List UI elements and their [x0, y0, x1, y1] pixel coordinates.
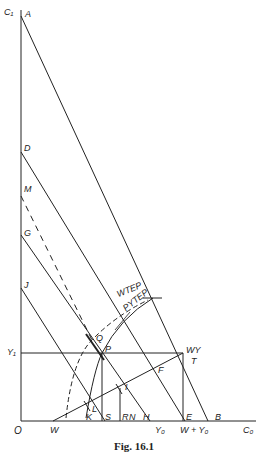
label-P: P — [105, 345, 111, 354]
label-S: S — [105, 413, 111, 422]
label-L: L — [92, 405, 97, 414]
figure-caption: Fig. 16.1 — [114, 440, 154, 452]
label-WY: WY — [186, 346, 201, 355]
label-D: D — [24, 144, 31, 153]
label-A: A — [25, 10, 31, 19]
label-W: W — [50, 426, 59, 435]
label-Y1: Y₁ — [7, 348, 16, 357]
diagram-canvas — [0, 0, 263, 458]
label-I: I — [125, 383, 128, 392]
figure-16-1: C₁ A D M G J Y₁ Q P WY T F I L K S R N H… — [0, 0, 263, 458]
label-Y0: Y₀ — [155, 426, 165, 435]
label-C1-axis: C₁ — [4, 8, 13, 17]
label-T: T — [191, 357, 197, 366]
label-W-plus-Y0: W + Y₀ — [180, 426, 208, 435]
line-MQ-dashed — [21, 196, 92, 340]
label-M: M — [24, 185, 32, 194]
line-GH — [21, 235, 150, 421]
label-Q: Q — [96, 334, 103, 343]
label-F: F — [158, 366, 164, 375]
line-JK — [21, 288, 105, 421]
label-C0-axis: C₀ — [243, 426, 253, 435]
label-R: R — [122, 413, 129, 422]
label-O: O — [14, 426, 22, 436]
label-J: J — [24, 281, 29, 290]
label-K: K — [86, 413, 92, 422]
label-E: E — [186, 413, 192, 422]
label-B: B — [215, 413, 221, 422]
label-G: G — [24, 229, 31, 238]
label-H: H — [143, 413, 150, 422]
label-N: N — [129, 413, 136, 422]
line-DE — [21, 152, 185, 421]
line-AB — [21, 16, 208, 421]
